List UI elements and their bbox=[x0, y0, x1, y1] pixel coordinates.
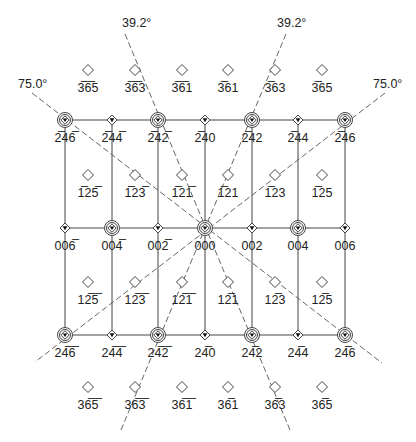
open-diamond-icon bbox=[223, 170, 234, 181]
diamond-reflection-marker bbox=[223, 382, 234, 393]
diagram-canvas: 3̅6̅53̅6̅33̅6̅13̅613̅633̅652̅46̅2̅44̅2̅4… bbox=[0, 0, 416, 442]
angle-label-right-75: 75.0° bbox=[373, 77, 402, 91]
ring-reflection-marker bbox=[291, 221, 306, 236]
open-diamond-icon bbox=[177, 170, 188, 181]
angle-label-top-right-39: 39.2° bbox=[277, 16, 306, 30]
diamond-reflection-marker bbox=[177, 382, 188, 393]
reflection-index-label: 3̅63 bbox=[265, 81, 286, 95]
reflection-index-label: 1̅21 bbox=[218, 186, 239, 200]
reflection-index-label: 36̅5 bbox=[312, 398, 333, 412]
diamond-reflection-marker bbox=[317, 382, 328, 393]
diamond-reflection-marker bbox=[223, 65, 234, 76]
diamond-dot-reflection-marker bbox=[200, 115, 210, 125]
open-diamond-icon bbox=[270, 382, 281, 393]
diamond-reflection-marker bbox=[83, 170, 94, 181]
open-diamond-icon bbox=[130, 382, 141, 393]
ring-reflection-marker bbox=[198, 221, 213, 236]
reflection-index-label: 36̅1̅ bbox=[172, 398, 197, 412]
diamond-reflection-marker bbox=[177, 65, 188, 76]
open-diamond-icon bbox=[223, 65, 234, 76]
ring-reflection-marker bbox=[245, 113, 260, 128]
reflection-index-label: 002̅ bbox=[148, 239, 173, 253]
diamond-reflection-marker bbox=[177, 170, 188, 181]
angle-label-left-75: 75.0° bbox=[18, 77, 47, 91]
ring-reflection-marker bbox=[338, 328, 353, 343]
reflection-index-label: 12̅5̅ bbox=[78, 293, 103, 307]
reflection-index-label: 24̅2 bbox=[242, 346, 263, 360]
reflection-index-label: 36̅1 bbox=[218, 398, 239, 412]
diamond-reflection-marker bbox=[130, 65, 141, 76]
reflection-index-label: 24̅2̅ bbox=[148, 346, 173, 360]
open-diamond-icon bbox=[317, 382, 328, 393]
diamond-reflection-marker bbox=[223, 170, 234, 181]
open-diamond-icon bbox=[177, 277, 188, 288]
diamond-dot-reflection-marker bbox=[107, 330, 117, 340]
reflection-index-label: 1̅23 bbox=[265, 186, 286, 200]
diamond-reflection-marker bbox=[130, 277, 141, 288]
diamond-reflection-marker bbox=[317, 65, 328, 76]
diamond-dot-reflection-marker bbox=[107, 115, 117, 125]
diamond-dot-reflection-marker bbox=[293, 330, 303, 340]
reflection-index-label: 1̅25 bbox=[312, 186, 333, 200]
reflection-index-label: 2̅44̅ bbox=[102, 131, 127, 145]
open-diamond-icon bbox=[130, 65, 141, 76]
diamond-dot-reflection-marker bbox=[340, 223, 350, 233]
reflection-index-label: 006 bbox=[335, 239, 356, 253]
reflection-index-label: 002 bbox=[242, 239, 263, 253]
diamond-reflection-marker bbox=[83, 382, 94, 393]
open-diamond-icon bbox=[270, 277, 281, 288]
diamond-reflection-marker bbox=[83, 65, 94, 76]
ring-reflection-marker bbox=[58, 113, 73, 128]
open-diamond-icon bbox=[83, 277, 94, 288]
open-diamond-icon bbox=[130, 277, 141, 288]
reflection-index-label: 12̅3̅ bbox=[125, 293, 150, 307]
reflection-index-label: 36̅3 bbox=[265, 398, 286, 412]
open-diamond-icon bbox=[130, 170, 141, 181]
diamond-reflection-marker bbox=[317, 277, 328, 288]
reflection-index-label: 006̅ bbox=[55, 239, 80, 253]
open-diamond-icon bbox=[317, 277, 328, 288]
angle-label-top-left-39: 39.2° bbox=[122, 16, 151, 30]
reflection-labels: 3̅6̅53̅6̅33̅6̅13̅613̅633̅652̅46̅2̅44̅2̅4… bbox=[55, 81, 356, 412]
ring-reflection-marker bbox=[58, 328, 73, 343]
reflection-index-label: 3̅65 bbox=[312, 81, 333, 95]
ring-reflection-marker bbox=[105, 221, 120, 236]
reflection-index-label: 12̅3 bbox=[265, 293, 286, 307]
ring-reflection-marker bbox=[338, 113, 353, 128]
reflection-index-label: 24̅0 bbox=[195, 346, 216, 360]
reflection-index-label: 000 bbox=[195, 239, 216, 253]
diamond-reflection-marker bbox=[177, 277, 188, 288]
angle-labels: 39.2°39.2°75.0°75.0° bbox=[18, 16, 402, 91]
ring-reflection-marker bbox=[151, 328, 166, 343]
open-diamond-icon bbox=[270, 65, 281, 76]
open-diamond-icon bbox=[177, 382, 188, 393]
ring-reflection-marker bbox=[245, 328, 260, 343]
open-diamond-icon bbox=[223, 382, 234, 393]
reflection-index-label: 004̅ bbox=[102, 239, 127, 253]
diamond-reflection-marker bbox=[83, 277, 94, 288]
open-diamond-icon bbox=[177, 65, 188, 76]
open-diamond-icon bbox=[317, 65, 328, 76]
open-diamond-icon bbox=[317, 170, 328, 181]
reflection-index-label: 12̅5 bbox=[312, 293, 333, 307]
reflection-index-label: 24̅6̅ bbox=[55, 346, 80, 360]
diamond-reflection-marker bbox=[317, 170, 328, 181]
diamond-reflection-marker bbox=[130, 382, 141, 393]
reflection-index-label: 004 bbox=[288, 239, 309, 253]
reflection-index-label: 24̅4̅ bbox=[102, 346, 127, 360]
diamond-reflection-marker bbox=[270, 170, 281, 181]
diamond-reflection-marker bbox=[270, 382, 281, 393]
open-diamond-icon bbox=[83, 65, 94, 76]
reflection-index-label: 3̅61 bbox=[218, 81, 239, 95]
reflection-index-label: 3̅6̅3 bbox=[125, 81, 146, 95]
diamond-reflection-marker bbox=[270, 277, 281, 288]
diamond-dot-reflection-marker bbox=[153, 223, 163, 233]
diamond-reflection-marker bbox=[130, 170, 141, 181]
open-diamond-icon bbox=[270, 170, 281, 181]
reflection-index-label: 3̅6̅5 bbox=[78, 81, 99, 95]
reflection-index-label: 1̅23̅ bbox=[125, 186, 150, 200]
reflection-index-label: 36̅5̅ bbox=[78, 398, 103, 412]
reflection-index-label: 24̅6 bbox=[335, 346, 356, 360]
open-diamond-icon bbox=[83, 382, 94, 393]
open-diamond-icon bbox=[83, 170, 94, 181]
